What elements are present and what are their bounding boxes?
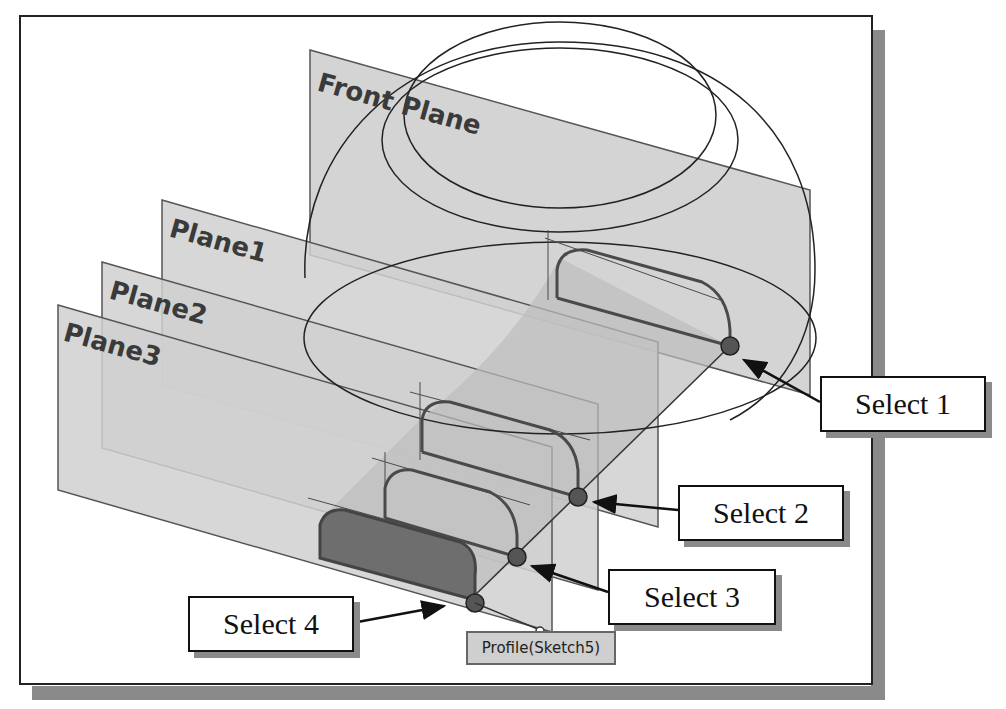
callout-select-1: Select 1: [820, 376, 986, 432]
profile-tooltip-label: Profile(Sketch5): [482, 639, 600, 657]
frame-shadow-right: [871, 30, 885, 700]
connector-point-1[interactable]: [721, 337, 739, 355]
callout-select-4: Select 4: [188, 596, 354, 652]
callout-select-2: Select 2: [678, 485, 844, 541]
diagram-canvas: Front Plane Plane1 Plane2 Plane3: [0, 0, 1006, 709]
frame-shadow-bottom: [32, 686, 885, 700]
callout-select-1-label: Select 1: [855, 387, 951, 421]
connector-point-2[interactable]: [569, 488, 587, 506]
connector-point-3[interactable]: [508, 548, 526, 566]
callout-select-4-label: Select 4: [223, 607, 319, 641]
profile-tooltip[interactable]: Profile(Sketch5): [466, 631, 616, 665]
callout-select-2-label: Select 2: [713, 496, 809, 530]
callout-select-3-label: Select 3: [644, 580, 740, 614]
callout-select-3: Select 3: [608, 569, 776, 625]
